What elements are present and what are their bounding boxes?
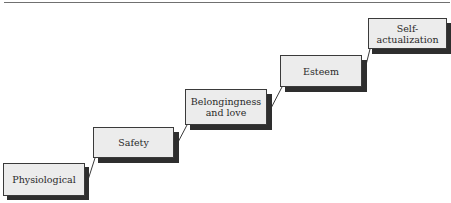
- step-box-esteem: Esteem: [280, 55, 362, 87]
- step-label: Esteem: [303, 66, 339, 77]
- step-box-self-actualization: Self-actualization: [368, 18, 447, 49]
- step-label: Self-actualization: [369, 23, 446, 45]
- step-label: Belongingness and love: [191, 96, 261, 118]
- step-label: Physiological: [12, 174, 75, 185]
- step-label: Safety: [118, 137, 149, 148]
- step-box-belongingness: Belongingness and love: [185, 89, 267, 125]
- step-box-safety: Safety: [93, 127, 174, 158]
- step-box-physiological: Physiological: [3, 163, 85, 196]
